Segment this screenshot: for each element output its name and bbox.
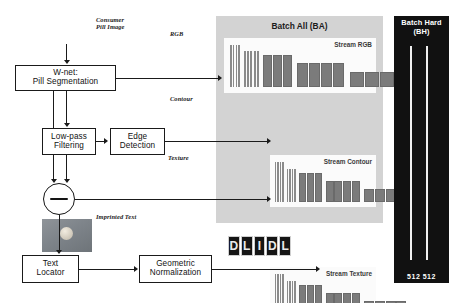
normalized-char: D: [228, 236, 240, 256]
batch-hard-bar-1: [410, 46, 412, 260]
consumer-pill-image-caption: Consumer Pill Image: [96, 16, 144, 30]
stream-texture-card: Stream Texture: [270, 267, 376, 303]
normalized-char: I: [254, 236, 266, 256]
contour-caption: Contour: [170, 95, 193, 102]
batch-all-title: Batch All (BA): [216, 21, 383, 31]
arrow-edge-to-stream-contour: [267, 138, 271, 144]
batch-hard-panel: Batch Hard (BH) 512 512: [394, 16, 449, 283]
arrow-wnet-to-stream-rgb: [218, 75, 222, 81]
imprinted-text-caption: Imprinted Text: [96, 213, 136, 220]
wnet-label-line2: Pill Segmentation: [33, 78, 98, 87]
arrow-geonorm-to-stream-text: [316, 266, 320, 272]
stream-contour-card: Stream Contour: [270, 155, 376, 207]
text-locator-box[interactable]: Text Locator: [22, 255, 79, 283]
connector-subtract-to-text-locator: [59, 215, 60, 251]
lowpass-label-line2: Filtering: [51, 142, 87, 151]
arrow-wnet-to-lowpass: [64, 123, 70, 127]
connector-edge-to-stream-contour: [165, 141, 269, 142]
stream-rgb-blocks: [230, 45, 409, 87]
texture-caption: Texture: [168, 154, 189, 161]
connector-geonorm-to-stream-text: [212, 269, 318, 270]
edge-label-line2: Detection: [120, 142, 156, 151]
batch-hard-title-line1: Batch Hard: [401, 18, 441, 27]
arrow-photo-to-wnet: [64, 60, 70, 64]
minus-glyph: [50, 198, 67, 200]
text-locator-label-line2: Locator: [36, 269, 64, 278]
connector-wnet-to-stream-rgb: [116, 78, 219, 79]
consumer-pill-image-thumbnail: [42, 219, 92, 252]
normalized-char: L: [241, 236, 253, 256]
wnet-pill-segmentation-box[interactable]: W-net: Pill Segmentation: [15, 65, 116, 91]
connector-photo-to-wnet: [66, 44, 67, 61]
arrow-lowpass-to-subtract: [64, 179, 70, 183]
consumer-caption-line1: Consumer: [96, 16, 124, 23]
low-pass-filtering-box[interactable]: Low-pass Filtering: [42, 128, 96, 155]
edge-detection-box[interactable]: Edge Detection: [110, 128, 165, 155]
rgb-caption: RGB: [170, 30, 183, 37]
normalized-imprint-strip: D L I D L: [228, 236, 291, 256]
connector-text-locator-to-geonorm: [79, 269, 136, 270]
geometric-normalization-box[interactable]: Geometric Normalization: [139, 255, 212, 283]
arrow-text-locator-to-geonorm: [134, 266, 138, 272]
subtract-operator-node: [43, 183, 75, 215]
stream-rgb-card: Stream RGB: [224, 38, 376, 93]
connector-wnet-to-lowpass: [66, 91, 67, 124]
connector-lowpass-to-subtract: [66, 155, 67, 180]
connector-subtract-to-stream-texture: [75, 199, 269, 200]
batch-hard-title-line2: (BH): [414, 27, 430, 36]
batch-hard-title: Batch Hard (BH): [394, 19, 449, 36]
arrow-subtract-to-stream-texture: [267, 196, 271, 202]
arrow-lowpass-to-edge: [104, 138, 108, 144]
batch-hard-bar-2: [426, 46, 428, 260]
normalized-char: L: [279, 236, 291, 256]
figure-canvas: Batch All (BA) Stream RGB: [0, 0, 461, 303]
arrow-subtract-to-text-locator: [56, 250, 62, 254]
batch-hard-embedding-sizes: 512 512: [394, 273, 449, 280]
consumer-caption-line2: Pill Image: [96, 23, 125, 30]
stream-contour-blocks: [275, 162, 406, 202]
normalized-char: D: [266, 236, 278, 256]
stream-texture-blocks: [275, 274, 406, 303]
geonorm-label-line2: Normalization: [150, 269, 201, 278]
